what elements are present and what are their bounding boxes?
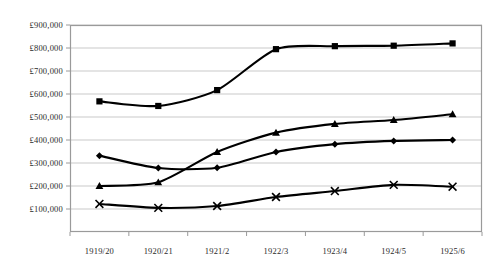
data-point-square bbox=[332, 43, 338, 49]
x-tick-label: 1919/20 bbox=[85, 246, 114, 256]
y-tick-label: £100,000 bbox=[30, 204, 63, 214]
data-point-square bbox=[96, 98, 102, 104]
x-tick-label: 1922/3 bbox=[264, 246, 289, 256]
y-tick-label: £600,000 bbox=[30, 89, 63, 99]
x-tick-label: 1923/4 bbox=[322, 246, 347, 256]
x-tick-label: 1921/2 bbox=[205, 246, 230, 256]
y-tick-label: £400,000 bbox=[30, 135, 63, 145]
plot-background bbox=[70, 25, 482, 232]
x-tick-label: 1925/6 bbox=[440, 246, 465, 256]
y-tick-label: £900,000 bbox=[30, 20, 63, 30]
y-tick-label: £200,000 bbox=[30, 181, 63, 191]
line-chart: £100,000£200,000£300,000£400,000£500,000… bbox=[0, 0, 501, 270]
data-point-square bbox=[155, 103, 161, 109]
data-point-square bbox=[391, 43, 397, 49]
y-tick-label: £800,000 bbox=[30, 43, 63, 53]
y-tick-label: £500,000 bbox=[30, 112, 63, 122]
data-point-square bbox=[273, 46, 279, 52]
data-point-square bbox=[214, 87, 220, 93]
chart-canvas bbox=[0, 0, 501, 270]
x-tick-label: 1920/21 bbox=[144, 246, 173, 256]
y-tick-label: £300,000 bbox=[30, 158, 63, 168]
x-tick-label: 1924/5 bbox=[381, 246, 406, 256]
data-point-square bbox=[449, 40, 455, 46]
y-tick-label: £700,000 bbox=[30, 66, 63, 76]
